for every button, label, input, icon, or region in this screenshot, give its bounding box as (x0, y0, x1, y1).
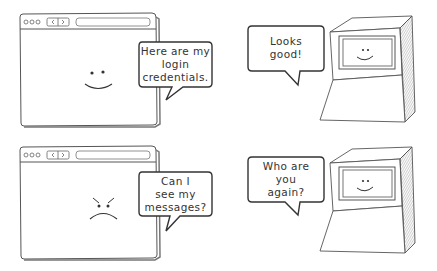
speech-line: see my (139, 188, 212, 201)
server-speech-text: Looks good! (248, 35, 324, 61)
speech-line: messages? (139, 201, 212, 214)
speech-line: you (248, 173, 324, 186)
speech-line: credentials. (139, 71, 212, 84)
speech-line: Here are my (139, 45, 212, 58)
speech-line: Who are (248, 160, 324, 173)
speech-line: good! (248, 48, 324, 61)
speech-line: again? (248, 186, 324, 199)
panel-1-drawing (0, 0, 437, 135)
server-computer (320, 16, 415, 122)
browser-speech-text: Here are my login credentials. (139, 45, 212, 84)
speech-line: login (139, 58, 212, 71)
server-speech-text: Who are you again? (248, 160, 324, 199)
server-computer (320, 147, 415, 253)
browser-speech-text: Can I see my messages? (139, 175, 212, 214)
panel-1: Here are my login credentials. Looks goo… (0, 0, 437, 135)
speech-line: Looks (248, 35, 324, 48)
panel-2-drawing (0, 135, 437, 271)
panel-2: Can I see my messages? Who are you again… (0, 135, 437, 270)
speech-line: Can I (139, 175, 212, 188)
